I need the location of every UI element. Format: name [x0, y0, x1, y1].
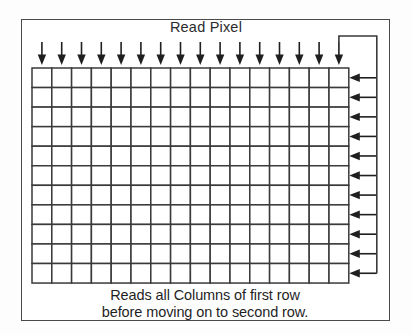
pixel-cell	[151, 264, 171, 284]
pixel-cell	[111, 127, 131, 147]
pixel-cell	[52, 244, 72, 264]
pixel-cell	[91, 185, 111, 205]
pixel-cell	[151, 88, 171, 108]
pixel-cell	[289, 127, 309, 147]
column-scan-arrow	[77, 42, 85, 65]
pixel-cell	[289, 88, 309, 108]
pixel-cell	[131, 224, 151, 244]
pixel-cell	[91, 264, 111, 284]
pixel-cell	[91, 244, 111, 264]
pixel-cell	[270, 107, 290, 127]
pixel-cell	[32, 224, 52, 244]
pixel-cell	[52, 68, 72, 88]
pixel-cell	[230, 68, 250, 88]
pixel-cell	[210, 224, 230, 244]
pixel-cell	[270, 244, 290, 264]
pixel-cell	[270, 205, 290, 225]
pixel-cell	[171, 224, 191, 244]
pixel-cell	[52, 224, 72, 244]
pixel-cell	[289, 146, 309, 166]
pixel-cell	[270, 88, 290, 108]
pixel-cell	[329, 68, 349, 88]
pixel-cell	[210, 146, 230, 166]
column-scan-arrow	[38, 42, 46, 65]
pixel-cell	[52, 127, 72, 147]
pixel-cell	[329, 264, 349, 284]
row-return-arrow	[349, 152, 377, 160]
pixel-cell	[32, 205, 52, 225]
pixel-cell	[151, 146, 171, 166]
pixel-cell	[111, 88, 131, 108]
pixel-cell	[72, 264, 92, 284]
pixel-cell	[72, 244, 92, 264]
pixel-cell	[91, 127, 111, 147]
row-return-arrow	[349, 269, 377, 277]
pixel-cell	[270, 185, 290, 205]
pixel-cell	[52, 107, 72, 127]
pixel-cell	[210, 107, 230, 127]
row-return-arrow	[349, 132, 377, 140]
pixel-cell	[309, 127, 329, 147]
pixel-cell	[151, 205, 171, 225]
pixel-cell	[270, 224, 290, 244]
pixel-cell	[171, 88, 191, 108]
pixel-cell	[131, 166, 151, 186]
pixel-cell	[329, 224, 349, 244]
pixel-cell	[329, 127, 349, 147]
pixel-cell	[250, 166, 270, 186]
pixel-cell	[111, 244, 131, 264]
pixel-cell	[250, 68, 270, 88]
pixel-cell	[309, 264, 329, 284]
column-scan-arrow	[58, 42, 66, 65]
pixel-cell	[230, 244, 250, 264]
pixel-cell	[190, 244, 210, 264]
pixel-cell	[250, 185, 270, 205]
read-pixel-diagram: Read Pixel Reads all Columns of first ro…	[0, 0, 412, 335]
pixel-cell	[52, 185, 72, 205]
pixel-cell	[250, 264, 270, 284]
pixel-cell	[32, 146, 52, 166]
row-return-arrow	[349, 250, 377, 258]
pixel-cell	[309, 107, 329, 127]
pixel-cell	[91, 68, 111, 88]
pixel-cell	[32, 88, 52, 108]
pixel-cell	[171, 146, 191, 166]
pixel-cell	[289, 166, 309, 186]
pixel-cell	[131, 185, 151, 205]
pixel-cell	[72, 224, 92, 244]
pixel-cell	[329, 205, 349, 225]
pixel-cell	[111, 166, 131, 186]
pixel-cell	[210, 205, 230, 225]
pixel-cell	[329, 88, 349, 108]
pixel-grid	[32, 68, 349, 283]
pixel-cell	[131, 146, 151, 166]
column-scan-arrows	[38, 42, 343, 65]
pixel-cell	[91, 205, 111, 225]
pixel-cell	[190, 224, 210, 244]
pixel-cell	[151, 224, 171, 244]
caption-line-2: before moving on to second row.	[26, 304, 384, 321]
pixel-cell	[190, 205, 210, 225]
pixel-cell	[171, 166, 191, 186]
diagram-caption: Reads all Columns of first row before mo…	[26, 287, 384, 320]
pixel-cell	[52, 264, 72, 284]
pixel-cell	[171, 244, 191, 264]
pixel-cell	[72, 205, 92, 225]
pixel-cell	[91, 166, 111, 186]
pixel-cell	[111, 205, 131, 225]
pixel-cell	[32, 264, 52, 284]
pixel-cell	[32, 68, 52, 88]
pixel-cell	[190, 185, 210, 205]
pixel-cell	[111, 264, 131, 284]
pixel-cell	[270, 264, 290, 284]
pixel-cell	[72, 146, 92, 166]
pixel-cell	[270, 68, 290, 88]
pixel-cell	[111, 68, 131, 88]
column-scan-arrow	[196, 42, 204, 65]
row-return-arrow	[349, 93, 377, 101]
row-return-arrow	[349, 74, 377, 82]
pixel-cell	[171, 68, 191, 88]
column-scan-arrow	[295, 42, 303, 65]
pixel-cell	[250, 205, 270, 225]
pixel-cell	[289, 185, 309, 205]
